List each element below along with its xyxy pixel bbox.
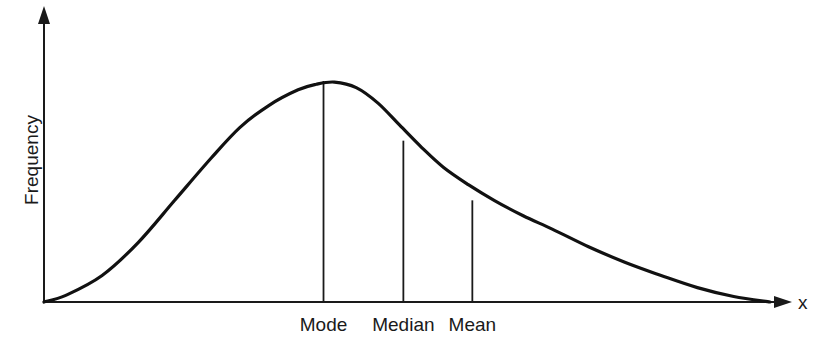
- mean-label: Mean: [449, 314, 497, 335]
- marker-labels: ModeMedianMean: [300, 314, 496, 335]
- x-axis-arrow-icon: [774, 296, 792, 308]
- x-axis: x: [44, 292, 808, 313]
- chart: Frequency x ModeMedianMean: [0, 0, 823, 345]
- y-axis-label: Frequency: [21, 115, 42, 205]
- x-axis-label: x: [798, 292, 808, 313]
- mode-label: Mode: [300, 314, 348, 335]
- distribution-curve: [44, 82, 770, 302]
- y-axis-arrow-icon: [38, 6, 50, 24]
- median-label: Median: [372, 314, 434, 335]
- marker-group: [324, 81, 473, 302]
- y-axis: Frequency: [21, 6, 50, 302]
